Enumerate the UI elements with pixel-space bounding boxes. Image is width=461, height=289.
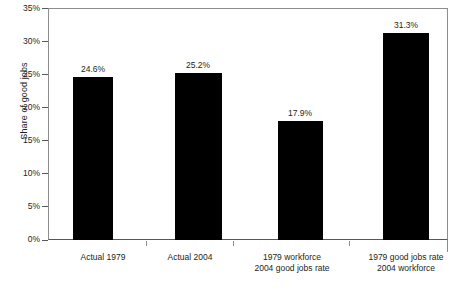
bar-value-1979-rate-2004-workforce: 31.3%	[376, 20, 436, 30]
x-category-line: Actual 1979	[53, 252, 153, 263]
bar-value-actual-2004: 25.2%	[168, 60, 228, 70]
x-category-label-1979-rate-2004-workforce: 1979 good jobs rate 2004 workforce	[350, 252, 461, 274]
x-category-line: 2004 workforce	[350, 263, 461, 274]
x-tick-mark-2	[233, 241, 234, 246]
x-category-label-actual-1979: Actual 1979	[53, 252, 153, 263]
y-tick-label-5: 5%	[0, 202, 40, 211]
y-tick-label-25: 25%	[0, 70, 40, 79]
y-tick-label-35: 35%	[0, 4, 40, 13]
y-tick-label-10: 10%	[0, 169, 40, 178]
plot-frame-right-extension	[447, 240, 448, 252]
y-tick-label-20: 20%	[0, 103, 40, 112]
x-tick-mark-3	[349, 241, 350, 246]
bar-1979-workforce-2004-rate	[278, 121, 323, 240]
x-tick-mark-1	[146, 241, 147, 246]
y-tick-label-0: 0%	[0, 235, 40, 244]
bar-value-actual-1979: 24.6%	[63, 64, 123, 74]
x-category-line: 2004 good jobs rate	[236, 263, 348, 274]
bar-actual-1979	[73, 77, 113, 240]
bar-value-1979-workforce-2004-rate: 17.9%	[270, 108, 330, 118]
y-tick-label-30: 30%	[0, 37, 40, 46]
y-tick-mark-0	[42, 240, 48, 241]
x-category-line: 1979 good jobs rate	[350, 252, 461, 263]
y-tick-label-15: 15%	[0, 136, 40, 145]
x-category-line: Actual 2004	[140, 252, 240, 263]
x-category-label-1979-workforce-2004-rate: 1979 workforce 2004 good jobs rate	[236, 252, 348, 274]
bar-actual-2004	[175, 73, 222, 240]
x-category-line: 1979 workforce	[236, 252, 348, 263]
x-category-label-actual-2004: Actual 2004	[140, 252, 240, 263]
bar-1979-rate-2004-workforce	[383, 33, 429, 240]
bar-chart: Share of good jobs 35% 30% 25% 20% 15% 1…	[0, 0, 461, 289]
